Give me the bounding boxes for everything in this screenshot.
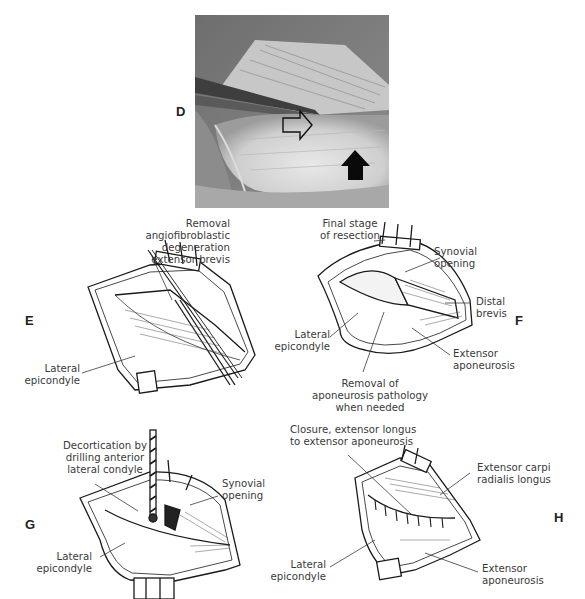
- label-line: Lateral: [20, 363, 80, 375]
- label-line: Lateral: [270, 559, 326, 571]
- label-line: Synovial: [222, 478, 265, 490]
- label-line: aponeurosis pathology: [305, 390, 435, 402]
- label-line: opening: [434, 258, 477, 270]
- label-h-extensor-carpi: Extensor carpi radialis longus: [477, 462, 551, 486]
- label-line: when needed: [305, 402, 435, 414]
- label-line: epicondyle: [270, 341, 330, 353]
- panel-letter-f: F: [515, 313, 523, 328]
- label-line: opening: [222, 490, 265, 502]
- label-line: Extensor: [482, 563, 544, 575]
- label-line: brevis: [476, 308, 507, 320]
- label-line: epicondyle: [30, 563, 92, 575]
- label-line: drilling anterior: [55, 452, 155, 464]
- label-line: Removal: [90, 218, 230, 230]
- label-line: Synovial: [434, 246, 477, 258]
- label-line: epicondyle: [270, 571, 326, 583]
- label-line: radialis longus: [477, 474, 551, 486]
- label-line: Lateral: [270, 329, 330, 341]
- label-g-lateral-epicondyle: Lateral epicondyle: [30, 551, 92, 575]
- label-line: Extensor carpi: [477, 462, 551, 474]
- label-e-lateral-epicondyle: Lateral epicondyle: [20, 363, 80, 387]
- label-line: Distal: [476, 296, 507, 308]
- label-line: Lateral: [30, 551, 92, 563]
- label-line: to extensor aponeurosis: [290, 436, 405, 448]
- label-line: degeneration: [90, 242, 230, 254]
- intraoperative-photo: [195, 15, 389, 208]
- label-f-extensor-aponeurosis: Extensor aponeurosis: [453, 348, 515, 372]
- label-line: Removal of: [305, 378, 435, 390]
- label-line: aponeurosis: [482, 575, 544, 587]
- label-h-extensor-aponeurosis: Extensor aponeurosis: [482, 563, 544, 587]
- label-f-synovial-opening: Synovial opening: [434, 246, 477, 270]
- label-line: Final stage: [315, 218, 385, 230]
- label-line: Decortication by: [55, 440, 155, 452]
- label-h-closure: Closure, extensor longus to extensor apo…: [290, 424, 405, 448]
- label-h-lateral-epicondyle: Lateral epicondyle: [270, 559, 326, 583]
- label-line: lateral condyle: [55, 464, 155, 476]
- panel-letter-g: G: [25, 517, 35, 532]
- panel-letter-d: D: [176, 104, 185, 119]
- panel-letter-h: H: [554, 510, 563, 525]
- label-line: angiofibroblastic: [90, 230, 230, 242]
- label-g-decortication: Decortication by drilling anterior later…: [55, 440, 155, 476]
- label-g-synovial-opening: Synovial opening: [222, 478, 265, 502]
- label-line: epicondyle: [20, 375, 80, 387]
- label-e-removal: Removal angiofibroblastic degeneration e…: [90, 218, 230, 266]
- panel-letter-e: E: [25, 313, 34, 328]
- label-f-final-stage: Final stage of resection: [315, 218, 385, 242]
- label-line: aponeurosis: [453, 360, 515, 372]
- label-line: of resection: [315, 230, 385, 242]
- label-f-removal-aponeurosis: Removal of aponeurosis pathology when ne…: [305, 378, 435, 414]
- label-f-lateral-epicondyle: Lateral epicondyle: [270, 329, 330, 353]
- label-f-distal-brevis: Distal brevis: [476, 296, 507, 320]
- label-line: Extensor: [453, 348, 515, 360]
- label-line: extensor brevis: [90, 254, 230, 266]
- photo-rendering: [195, 15, 389, 208]
- label-line: Closure, extensor longus: [290, 424, 405, 436]
